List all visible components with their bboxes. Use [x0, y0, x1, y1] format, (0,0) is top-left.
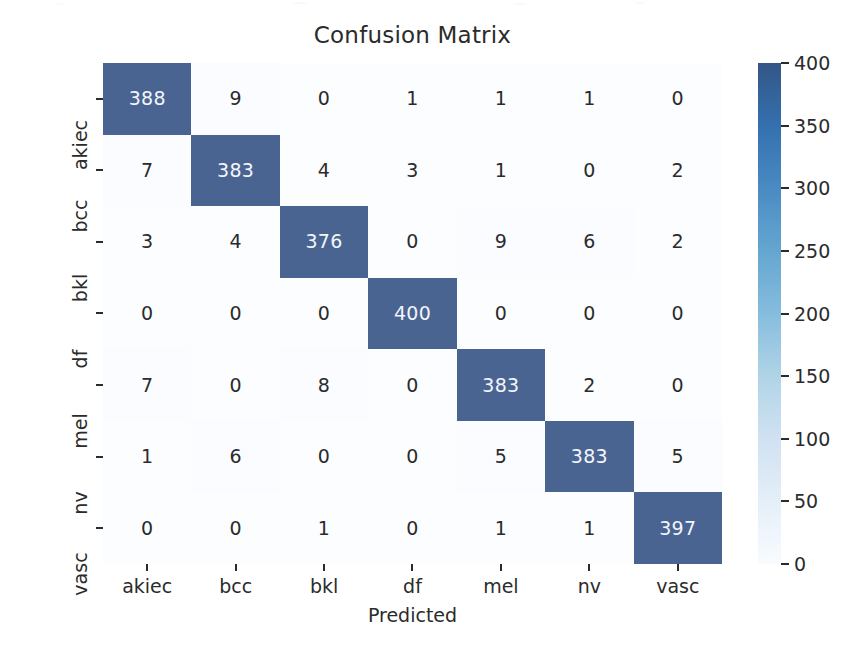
y-axis-tick-label: vasc — [69, 540, 91, 608]
colorbar-tick-mark — [781, 62, 789, 64]
matrix-cell: 388 — [103, 63, 191, 135]
matrix-cell: 5 — [457, 421, 545, 493]
y-axis-tick-akiec: akiec — [33, 63, 103, 135]
y-tick-mark — [96, 384, 103, 386]
matrix-cell: 383 — [457, 349, 545, 421]
y-axis-tick-mel: mel — [33, 349, 103, 421]
matrix-cell: 0 — [457, 278, 545, 350]
colorbar-tick-label: 250 — [794, 240, 830, 262]
matrix-cell-value: 7 — [141, 376, 153, 395]
matrix-cell-value: 7 — [141, 161, 153, 180]
matrix-cell: 0 — [545, 278, 633, 350]
matrix-cell-value: 383 — [571, 447, 608, 466]
colorbar-tick-label: 400 — [794, 52, 830, 74]
matrix-cell-value: 5 — [495, 447, 507, 466]
matrix-cell: 0 — [634, 278, 722, 350]
matrix-cell: 400 — [368, 278, 456, 350]
matrix-cell: 7 — [103, 135, 191, 207]
y-axis-tick-bkl: bkl — [33, 206, 103, 278]
matrix-cell-value: 9 — [229, 89, 241, 108]
matrix-cell: 1 — [545, 492, 633, 564]
matrix-cell-value: 0 — [229, 519, 241, 538]
colorbar-tick-label: 50 — [794, 490, 818, 512]
y-tick-mark — [96, 527, 103, 529]
matrix-cell-value: 0 — [229, 304, 241, 323]
x-tick-mark — [500, 564, 502, 571]
matrix-cell: 3 — [103, 206, 191, 278]
matrix-cell-value: 5 — [672, 447, 684, 466]
y-tick-mark — [96, 456, 103, 458]
matrix-cell: 8 — [280, 349, 368, 421]
matrix-cell: 2 — [545, 349, 633, 421]
y-axis-tick-df: df — [33, 278, 103, 350]
matrix-cell-value: 0 — [141, 304, 153, 323]
matrix-cell-value: 1 — [583, 519, 595, 538]
x-tick-mark — [588, 564, 590, 571]
matrix-cell: 0 — [103, 278, 191, 350]
page-title: Confusion Matrix — [0, 22, 825, 48]
matrix-cell: 383 — [545, 421, 633, 493]
matrix-cell: 0 — [280, 63, 368, 135]
matrix-cell: 4 — [191, 206, 279, 278]
matrix-cell: 1 — [457, 63, 545, 135]
matrix-cell-value: 0 — [318, 89, 330, 108]
colorbar-tick-label: 200 — [794, 303, 830, 325]
x-tick-mark — [677, 564, 679, 571]
heatmap-plot-area: 3889011107383431023437609620004000007080… — [103, 63, 722, 564]
matrix-cell-value: 0 — [672, 89, 684, 108]
matrix-cell: 0 — [280, 278, 368, 350]
matrix-cell-value: 3 — [141, 232, 153, 251]
colorbar-tick-label: 150 — [794, 365, 830, 387]
x-axis-tick-label: df — [368, 575, 456, 597]
x-tick-mark — [323, 564, 325, 571]
matrix-cell-value: 2 — [583, 376, 595, 395]
y-axis-tick-bcc: bcc — [33, 135, 103, 207]
matrix-cell-value: 0 — [495, 304, 507, 323]
matrix-cell: 0 — [634, 63, 722, 135]
matrix-cell-value: 1 — [495, 161, 507, 180]
matrix-cell-value: 1 — [141, 447, 153, 466]
matrix-cell-value: 0 — [406, 376, 418, 395]
matrix-cell: 0 — [191, 278, 279, 350]
y-axis-tick-nv: nv — [33, 421, 103, 493]
matrix-cell-value: 0 — [318, 304, 330, 323]
colorbar-tick-label: 350 — [794, 115, 830, 137]
x-axis-tick-label: bkl — [280, 575, 368, 597]
matrix-cell: 0 — [368, 349, 456, 421]
matrix-cell: 0 — [368, 206, 456, 278]
matrix-cell-value: 1 — [406, 89, 418, 108]
matrix-cell: 7 — [103, 349, 191, 421]
matrix-cell-value: 1 — [318, 519, 330, 538]
colorbar-tick-mark — [781, 438, 789, 440]
y-tick-mark — [96, 98, 103, 100]
colorbar-gradient — [758, 63, 781, 564]
colorbar-tick-mark — [781, 313, 789, 315]
matrix-cell: 1 — [368, 63, 456, 135]
matrix-cell-value: 2 — [672, 161, 684, 180]
colorbar-tick-mark — [781, 187, 789, 189]
matrix-cell-value: 2 — [672, 232, 684, 251]
matrix-cell-value: 0 — [583, 304, 595, 323]
matrix-cell: 0 — [191, 349, 279, 421]
matrix-cell-value: 0 — [672, 376, 684, 395]
x-tick-mark — [411, 564, 413, 571]
matrix-cell: 1 — [103, 421, 191, 493]
matrix-cell: 9 — [457, 206, 545, 278]
matrix-cell: 1 — [545, 63, 633, 135]
x-axis-tick-label: mel — [457, 575, 545, 597]
colorbar: 050100150200250300350400 — [758, 63, 781, 564]
x-axis-tick-label: bcc — [191, 575, 279, 597]
matrix-cell-value: 9 — [495, 232, 507, 251]
matrix-cell-value: 0 — [583, 161, 595, 180]
matrix-cell-value: 1 — [583, 89, 595, 108]
matrix-cell: 383 — [191, 135, 279, 207]
matrix-cell: 1 — [457, 135, 545, 207]
matrix-cell-value: 6 — [583, 232, 595, 251]
matrix-cell-value: 0 — [672, 304, 684, 323]
matrix-cell-value: 0 — [318, 447, 330, 466]
y-axis-tick-vasc: vasc — [33, 492, 103, 564]
matrix-cell: 0 — [368, 421, 456, 493]
matrix-cell: 9 — [191, 63, 279, 135]
matrix-cell-value: 0 — [406, 447, 418, 466]
matrix-cell-value: 4 — [318, 161, 330, 180]
